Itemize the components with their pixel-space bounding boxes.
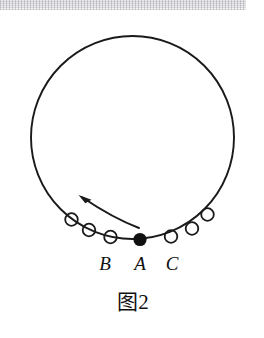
label-b: B xyxy=(99,253,111,274)
label-c: C xyxy=(166,253,179,274)
ball-ghost-right-2 xyxy=(186,222,199,235)
physics-circular-track-diagram: B A C 图2 xyxy=(0,0,264,338)
ball-ghost-right-3 xyxy=(201,208,214,221)
label-a: A xyxy=(132,253,146,274)
figure-container: B A C 图2 xyxy=(0,0,264,338)
figure-caption: 图2 xyxy=(117,290,149,314)
ball-at-a xyxy=(133,233,146,246)
